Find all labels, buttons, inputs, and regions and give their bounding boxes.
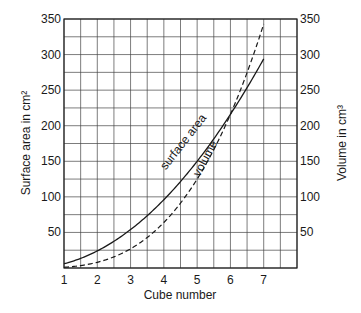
y-right-tick-label: 350 — [300, 12, 320, 26]
chart: 50100150200250300350 5010015020025030035… — [0, 0, 361, 313]
y-left-tick-label: 250 — [41, 83, 61, 97]
y-right-tick-label: 50 — [300, 225, 314, 239]
x-axis-ticks: 1234567 — [61, 273, 268, 287]
y-right-tick-label: 150 — [300, 154, 320, 168]
y-left-tick-label: 50 — [48, 225, 62, 239]
y-right-tick-label: 100 — [300, 190, 320, 204]
y-left-tick-label: 200 — [41, 119, 61, 133]
y-right-tick-label: 250 — [300, 83, 320, 97]
x-axis-label: Cube number — [144, 288, 217, 302]
y-axis-right-ticks: 50100150200250300350 — [300, 12, 320, 239]
x-tick-label: 3 — [127, 273, 134, 287]
y-left-tick-label: 350 — [41, 12, 61, 26]
y-axis-right-label: Volume in cm³ — [335, 105, 349, 181]
y-axis-left-label: Surface area in cm² — [19, 91, 33, 196]
x-tick-label: 2 — [94, 273, 101, 287]
x-tick-label: 5 — [194, 273, 201, 287]
x-tick-label: 1 — [61, 273, 68, 287]
y-left-tick-label: 300 — [41, 48, 61, 62]
y-right-tick-label: 300 — [300, 48, 320, 62]
y-right-tick-label: 200 — [300, 119, 320, 133]
x-tick-label: 6 — [227, 273, 234, 287]
y-left-tick-label: 100 — [41, 190, 61, 204]
y-axis-left-ticks: 50100150200250300350 — [41, 12, 61, 239]
x-tick-label: 4 — [161, 273, 168, 287]
y-left-tick-label: 150 — [41, 154, 61, 168]
x-tick-label: 7 — [260, 273, 267, 287]
